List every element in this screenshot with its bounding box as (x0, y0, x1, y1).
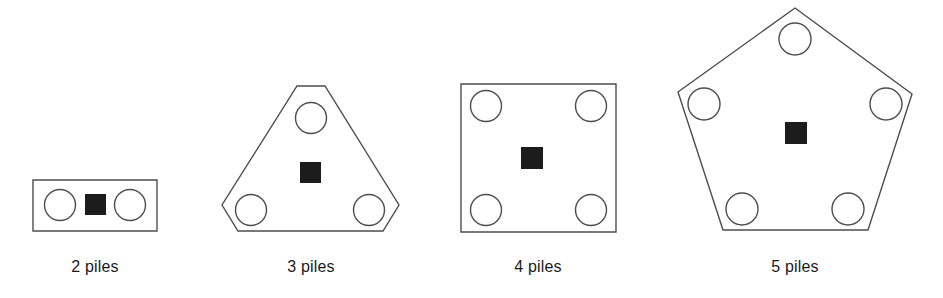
column-marker (300, 162, 321, 183)
pile-circle-1 (296, 103, 327, 134)
pile-circle-1 (779, 23, 811, 55)
group-2-piles: 2 piles (33, 180, 157, 275)
column-marker (521, 147, 543, 169)
column-marker (85, 194, 106, 215)
group-4-piles: 4 piles (461, 84, 616, 275)
pile-circle-2 (115, 190, 146, 221)
caption-4-piles: 4 piles (514, 258, 562, 275)
figure-root: 2 piles3 piles4 piles5 piles (0, 0, 943, 298)
pile-circle-1 (471, 91, 502, 122)
pile-circle-1 (45, 190, 76, 221)
pile-arrangements-figure: 2 piles3 piles4 piles5 piles (0, 0, 943, 298)
pile-circle-3 (471, 195, 502, 226)
group-5-piles: 5 piles (678, 8, 912, 275)
group-3-piles: 3 piles (222, 86, 399, 275)
pile-circle-3 (354, 195, 385, 226)
pile-circle-4 (726, 193, 758, 225)
pile-circle-3 (870, 88, 902, 120)
caption-5-piles: 5 piles (771, 258, 819, 275)
pile-circle-2 (688, 88, 720, 120)
pile-circle-5 (832, 193, 864, 225)
column-marker (785, 122, 807, 144)
pile-groups-layer: 2 piles3 piles4 piles5 piles (33, 8, 912, 275)
pile-circle-4 (576, 195, 607, 226)
caption-2-piles: 2 piles (71, 258, 119, 275)
caption-3-piles: 3 piles (287, 258, 335, 275)
pile-circle-2 (236, 195, 267, 226)
pile-circle-2 (576, 91, 607, 122)
